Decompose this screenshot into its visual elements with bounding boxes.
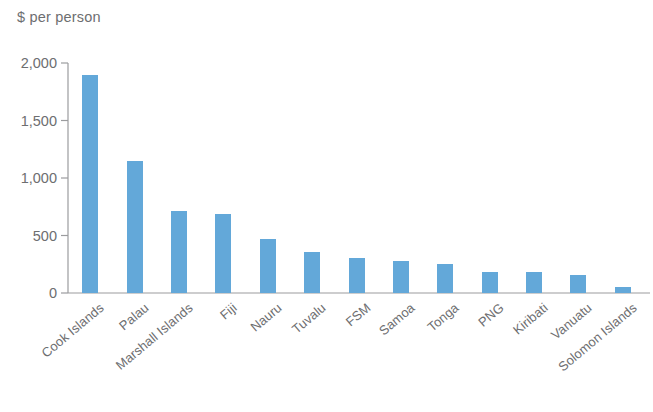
x-tick-label: Kiribati: [510, 300, 551, 338]
x-tick-label: Marshall Islands: [113, 300, 196, 373]
x-tick-label: PNG: [475, 300, 506, 330]
x-tick-label: Palau: [116, 300, 151, 333]
x-tick-label: Tuvalu: [289, 300, 329, 337]
bar-chart: $ per person 05001,0001,5002,000 Cook Is…: [0, 0, 653, 412]
x-tick-label: Cook Islands: [39, 300, 107, 361]
x-tick-label: Tonga: [425, 300, 462, 335]
chart-x-tick-labels: Cook IslandsPalauMarshall IslandsFijiNau…: [0, 0, 653, 412]
x-tick-label: Solomon Islands: [555, 300, 639, 374]
x-tick-label: Fiji: [217, 300, 240, 322]
x-tick-label: Nauru: [247, 300, 284, 335]
x-tick-label: FSM: [342, 300, 373, 329]
x-tick-label: Samoa: [376, 300, 418, 338]
